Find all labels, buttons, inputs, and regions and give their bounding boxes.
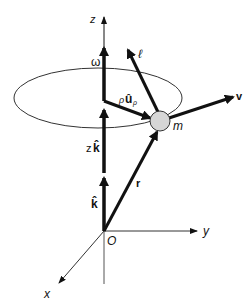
x-axis-label: x: [43, 287, 51, 301]
v-label: v: [236, 90, 243, 102]
origin-label: O: [107, 234, 116, 248]
z-k-hat-label: k̂: [93, 140, 100, 155]
k-hat-label: k̂: [91, 196, 98, 211]
omega-label: ω: [91, 55, 100, 69]
mass-label: m: [173, 119, 183, 133]
rho-u-main-label: û: [125, 92, 132, 106]
rho-u-prefix-label: ρ: [118, 95, 124, 105]
diagram-canvas: z ω ℓ ρ û ρ v m z k̂ k̂ r O y x: [0, 0, 250, 306]
x-axis: [59, 231, 104, 283]
y-axis-label: y: [202, 224, 210, 238]
mass-particle: [150, 111, 170, 131]
r-label: r: [136, 177, 141, 189]
ell-label: ℓ: [138, 47, 143, 61]
r-vector: [104, 132, 157, 231]
z-k-prefix-label: z: [86, 142, 92, 154]
z-axis-label: z: [89, 13, 96, 25]
rho-u-sub-label: ρ: [132, 99, 137, 107]
